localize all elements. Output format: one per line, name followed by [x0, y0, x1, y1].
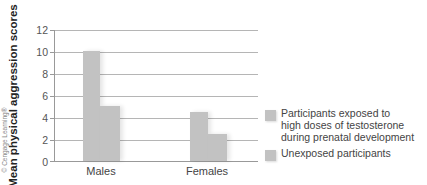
legend-swatch-unexposed — [265, 150, 276, 161]
tick — [50, 30, 55, 31]
legend-text: Unexposed participants — [281, 147, 391, 159]
y-tick-12: 12 — [28, 24, 48, 36]
x-label-males: Males — [86, 165, 115, 177]
legend-text-line: during prenatal development — [281, 131, 414, 143]
y-tick-2: 2 — [28, 134, 48, 146]
y-tick-10: 10 — [28, 46, 48, 58]
y-tick-4: 4 — [28, 112, 48, 124]
legend-swatch-exposed — [265, 110, 276, 121]
bar-females-exposed — [190, 112, 208, 162]
plot-area — [54, 30, 258, 162]
gridline-12 — [55, 30, 258, 31]
bar-females-unexposed — [208, 134, 227, 162]
tick — [50, 140, 55, 141]
tick — [50, 52, 55, 53]
tick — [50, 118, 55, 119]
y-tick-6: 6 — [28, 90, 48, 102]
legend-item-unexposed: Unexposed participants — [265, 147, 425, 161]
y-axis-label: Mean physical aggression scores — [7, 4, 19, 185]
x-label-females: Females — [186, 165, 228, 177]
y-tick-8: 8 — [28, 68, 48, 80]
legend-item-exposed: Participants exposed to high doses of te… — [265, 107, 425, 143]
legend-text-line: high doses of testosterone — [281, 119, 404, 131]
bar-males-unexposed — [100, 106, 120, 161]
legend-text-line: Participants exposed to — [281, 107, 390, 119]
tick — [50, 74, 55, 75]
tick — [50, 96, 55, 97]
y-tick-0: 0 — [28, 156, 48, 168]
legend: Participants exposed to high doses of te… — [265, 107, 425, 165]
tick — [50, 161, 55, 162]
bar-males-exposed — [83, 51, 100, 161]
